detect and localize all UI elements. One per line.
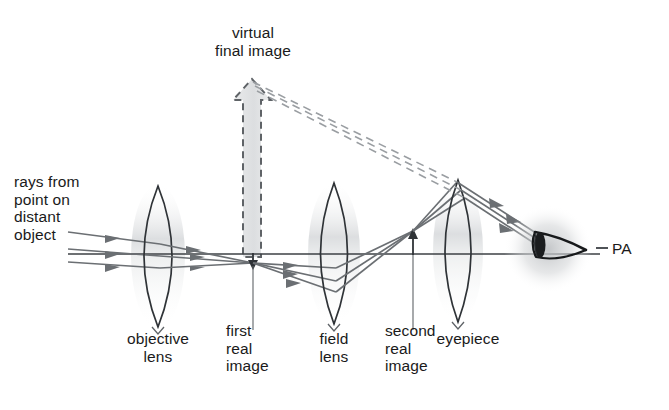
ray-arrowhead-obj-1 bbox=[186, 246, 201, 254]
ray-arrowhead-field-3 bbox=[286, 279, 301, 288]
virtual-dash-ray-3 bbox=[257, 91, 465, 198]
rays-from-point-label: rays from point on distant object bbox=[14, 173, 124, 243]
eye-glow bbox=[504, 205, 592, 293]
virtual-final-image-arrow bbox=[233, 79, 271, 257]
principal-axis-label: PA bbox=[612, 240, 656, 258]
virtual-image-dashed-rays bbox=[253, 82, 465, 198]
first-real-image-label: first real image bbox=[226, 322, 290, 375]
eyepiece-label: eyepiece bbox=[420, 330, 516, 348]
optics-ray-diagram: virtual final image rays from point on d… bbox=[0, 0, 669, 410]
virtual-dash-ray-1 bbox=[253, 82, 457, 182]
field-lens-label: field lens bbox=[302, 330, 366, 365]
virtual-final-image-fill bbox=[233, 79, 271, 257]
ray-arrowhead-eye-1 bbox=[489, 198, 504, 208]
objective-lens-label: objective lens bbox=[104, 330, 212, 365]
virtual-final-image-label: virtual final image bbox=[183, 24, 323, 59]
ray-arrowhead-obj-3 bbox=[190, 266, 205, 271]
eye-group bbox=[504, 205, 592, 293]
virtual-dash-ray-2 bbox=[255, 86, 461, 190]
